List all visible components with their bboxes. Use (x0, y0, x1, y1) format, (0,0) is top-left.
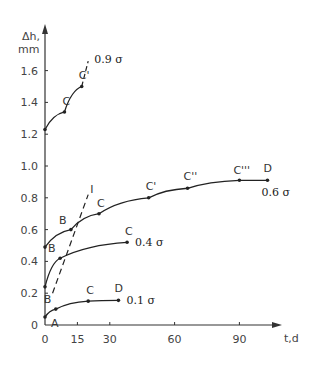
series-0.4-sigma: BC0.4 σ (43, 225, 164, 288)
y-tick-label: 0.6 (21, 224, 39, 237)
data-point (43, 245, 47, 249)
data-point (58, 256, 62, 260)
data-point (125, 241, 129, 245)
data-point (43, 128, 47, 132)
point-label: C (97, 197, 105, 210)
series-line (45, 87, 82, 130)
y-tick-label: 1.2 (21, 128, 39, 141)
data-point (186, 186, 190, 190)
x-axis-label: t,d (284, 332, 299, 345)
x-axis-arrow-icon (272, 322, 282, 328)
data-point (54, 307, 58, 311)
y-tick-label: 1.0 (21, 160, 39, 173)
y-tick-label: 0.8 (21, 192, 39, 205)
point-label: C' (146, 180, 157, 193)
point-label: C''' (233, 164, 250, 177)
y-axis-label-line1: Δh, (22, 30, 40, 43)
series-0.1-sigma: ABCD0.1 σ (43, 282, 155, 330)
y-axis-label-line2: mm (18, 43, 39, 56)
series-label: 0.1 σ (126, 294, 155, 307)
point-label: C' (79, 69, 90, 82)
point-label: C (125, 225, 133, 238)
data-point (117, 299, 121, 303)
y-tick-label: 0 (31, 319, 38, 332)
data-point (43, 315, 47, 319)
series-0.6-sigma: BCC'C''C'''D0.6 σ (43, 162, 290, 249)
y-tick-label: 1.6 (21, 65, 39, 78)
data-point (147, 196, 151, 200)
x-tick-label: 60 (168, 333, 182, 346)
point-label: D (263, 162, 271, 175)
x-tick-label: 30 (103, 333, 117, 346)
data-point (238, 179, 242, 183)
data-point (69, 228, 73, 232)
data-point (80, 85, 84, 89)
point-label: A (51, 317, 59, 330)
data-point (266, 179, 270, 183)
point-label: C (62, 95, 70, 108)
x-tick-label: 90 (232, 333, 246, 346)
series-0.9-sigma: CC'0.9 σ (43, 53, 123, 131)
point-label: C (86, 284, 94, 297)
chart: 01530609000.20.40.60.81.01.21.41.6 Δh, m… (0, 0, 310, 367)
data-point (43, 285, 47, 289)
data-point (86, 299, 90, 303)
y-axis-arrow-icon (42, 24, 48, 34)
dashed-line-label: I (90, 183, 93, 196)
y-tick-label: 0.4 (21, 255, 39, 268)
series-group: ABCD0.1 σBC0.4 σBCC'C''C'''D0.6 σCC'0.9 … (43, 53, 290, 330)
series-label: 0.9 σ (94, 53, 123, 66)
point-label: B (59, 214, 67, 227)
y-tick-label: 1.4 (21, 96, 39, 109)
dashed-reference-line (53, 195, 89, 294)
data-point (97, 212, 101, 216)
y-tick-label: 0.2 (21, 287, 39, 300)
point-label: B (44, 293, 52, 306)
x-tick-label: 15 (70, 333, 84, 346)
series-label: 0.6 σ (261, 186, 290, 199)
point-label: B (48, 242, 56, 255)
point-label: C'' (184, 170, 198, 183)
series-label: 0.4 σ (135, 236, 164, 249)
point-label: D (114, 282, 122, 295)
data-point (63, 110, 67, 114)
annotations: I (53, 183, 94, 294)
x-tick-label: 0 (42, 333, 49, 346)
